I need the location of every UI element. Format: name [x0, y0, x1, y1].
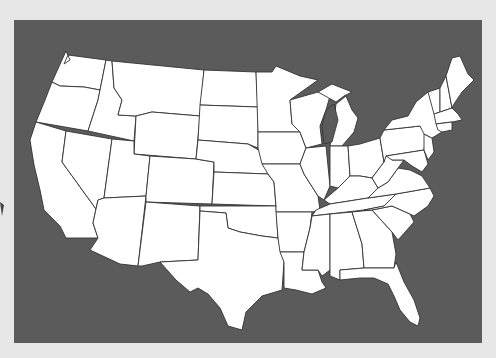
state-montana [112, 61, 204, 116]
state-iowa [258, 132, 306, 164]
state-wyoming [134, 112, 200, 159]
us-map [0, 0, 496, 358]
state-florida [340, 262, 420, 326]
state-maine [446, 56, 474, 108]
state-new-mexico [138, 202, 200, 266]
state-arizona [90, 196, 146, 266]
state-kansas [212, 172, 276, 206]
state-north-dakota [200, 70, 258, 107]
state-connecticut [436, 122, 452, 132]
state-colorado [146, 156, 214, 204]
state-washington [52, 51, 106, 90]
